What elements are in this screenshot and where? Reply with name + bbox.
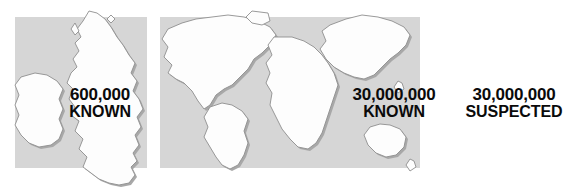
south-america-landmass [204, 103, 248, 169]
asia-landmass [320, 15, 410, 79]
world-suspected-label: 30,000,000 SUSPECTED [452, 86, 567, 120]
world-suspected-word: SUSPECTED [452, 104, 567, 120]
uk-known-number: 600,000 [55, 86, 145, 103]
orkney-islands [107, 15, 115, 23]
hebrides-islands [71, 23, 79, 35]
world-map-panel: 30,000,000 KNOWN 30,000,000 SUSPECTED [160, 17, 420, 168]
uk-known-word: KNOWN [55, 104, 145, 120]
uk-known-label: 600,000 KNOWN [55, 86, 145, 120]
world-known-label: 30,000,000 KNOWN [338, 86, 450, 120]
world-suspected-number: 30,000,000 [452, 86, 567, 103]
new-zealand-landmass [406, 159, 416, 171]
uk-map-panel: 600,000 KNOWN [15, 17, 147, 168]
world-known-word: KNOWN [338, 104, 450, 120]
world-known-number: 30,000,000 [338, 86, 450, 103]
